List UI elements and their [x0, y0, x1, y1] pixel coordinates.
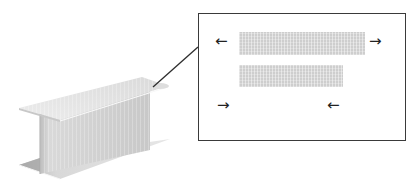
arrow-right-icon: →	[217, 98, 230, 113]
arrow-left-icon: ←	[327, 98, 340, 113]
diagram-canvas: ← → → ←	[0, 0, 417, 187]
leader-line	[153, 47, 198, 87]
arrow-right-icon: →	[369, 34, 382, 49]
arrow-left-icon: ←	[215, 34, 228, 49]
redacted-label-bar-2	[239, 65, 343, 87]
redacted-label-bar-1	[239, 32, 365, 55]
